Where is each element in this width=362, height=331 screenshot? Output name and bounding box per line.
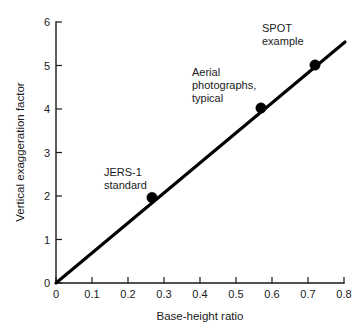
x-tick-label-3: 0.3 (156, 288, 171, 300)
x-tick-label-0: 0 (53, 288, 59, 300)
y-tick-label-4: 4 (44, 103, 50, 115)
annotation-aerial-line2: photographs, (192, 79, 256, 91)
x-tick-label-5: 0.5 (228, 288, 243, 300)
annotation-aerial-line3: typical (192, 92, 223, 104)
annotation-aerial-line1: Aerial (192, 66, 220, 78)
chart-container: 0 1 2 3 4 5 6 0 0.1 0.2 0.3 0.4 0.5 0.6 … (0, 0, 362, 331)
annotation-spot-line2: example (262, 35, 304, 47)
y-tick-label-3: 3 (44, 147, 50, 159)
x-axis-title: Base-height ratio (157, 310, 244, 322)
annotation-spot-line1: SPOT (262, 22, 292, 34)
annotation-spot: SPOT example (262, 22, 304, 47)
x-axis-tick-labels: 0 0.1 0.2 0.3 0.4 0.5 0.6 0.7 0.8 (53, 288, 352, 300)
annotation-jers1-line1: JERS-1 (104, 166, 142, 178)
x-tick-label-7: 0.7 (300, 288, 315, 300)
y-axis-title: Vertical exaggeration factor (14, 82, 26, 222)
y-tick-label-2: 2 (44, 190, 50, 202)
x-tick-label-1: 0.1 (84, 288, 99, 300)
chart-plot-area: 0 1 2 3 4 5 6 0 0.1 0.2 0.3 0.4 0.5 0.6 … (0, 0, 362, 331)
axis-lines (56, 22, 344, 283)
y-tick-label-0: 0 (44, 277, 50, 289)
annotation-jers1-line2: standard (104, 179, 147, 191)
annotation-jers1: JERS-1 standard (104, 166, 147, 191)
x-tick-label-6: 0.6 (264, 288, 279, 300)
x-tick-label-4: 0.4 (192, 288, 207, 300)
y-axis-tick-labels: 0 1 2 3 4 5 6 (44, 16, 50, 289)
data-point-marker-aerial (256, 103, 266, 113)
y-axis-ticks (56, 22, 62, 283)
x-tick-label-8: 0.8 (336, 288, 351, 300)
y-tick-label-1: 1 (44, 234, 50, 246)
annotation-aerial: Aerial photographs, typical (192, 66, 256, 104)
x-axis-ticks (56, 277, 344, 283)
data-point-marker-jers1 (147, 192, 157, 202)
x-tick-label-2: 0.2 (120, 288, 135, 300)
y-tick-label-5: 5 (44, 60, 50, 72)
y-tick-label-6: 6 (44, 16, 50, 28)
data-point-marker-spot (310, 60, 320, 70)
